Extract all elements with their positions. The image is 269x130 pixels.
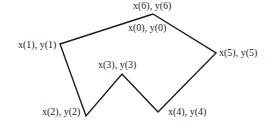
label-vertex-3: x(3), y(3) bbox=[98, 60, 136, 70]
label-vertex-6: x(6), y(6) bbox=[133, 1, 171, 11]
label-vertex-0: x(0), y(0) bbox=[128, 23, 166, 33]
polygon-diagram: x(6), y(6) x(0), y(0) x(1), y(1) x(3), y… bbox=[0, 0, 269, 130]
label-vertex-5: x(5), y(5) bbox=[219, 48, 257, 58]
label-vertex-1: x(1), y(1) bbox=[18, 40, 56, 50]
label-vertex-4: x(4), y(4) bbox=[168, 107, 206, 117]
label-vertex-2: x(2), y(2) bbox=[42, 107, 80, 117]
